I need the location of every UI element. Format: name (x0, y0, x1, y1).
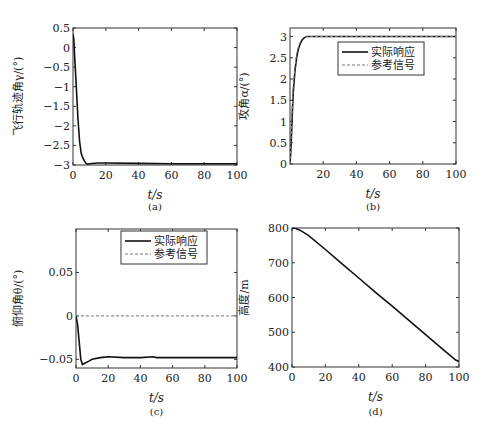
y-tick-label: −1 (54, 81, 70, 94)
panel-label: (a) (148, 201, 162, 212)
y-tick-label: −3 (54, 159, 70, 172)
subplot-c: 0204060801000.050−0.05实际响应参考信号t/s俯仰角θ/(°… (11, 229, 248, 417)
x-tick-label: 40 (349, 168, 363, 181)
y-tick-label: −0.05 (39, 353, 73, 366)
x-tick-label: 20 (99, 169, 113, 182)
y-tick-label: 500 (268, 326, 289, 339)
x-tick-label: 100 (446, 168, 467, 181)
panel-label: (b) (366, 201, 380, 212)
y-tick-label: 2.5 (270, 52, 288, 65)
y-axis-label: 俯仰角θ/(°) (11, 270, 25, 327)
axes-frame (292, 228, 459, 367)
x-axis-label: t/s (368, 390, 383, 404)
y-tick-label: 600 (268, 292, 289, 305)
x-tick-label: 60 (383, 168, 397, 181)
x-tick-label: 40 (133, 372, 147, 385)
y-tick-label: 0 (63, 42, 70, 55)
actual-response-line (76, 316, 237, 365)
y-tick-label: −1.5 (43, 100, 70, 113)
y-tick-label: 0.5 (270, 137, 288, 150)
y-tick-label: 0 (66, 310, 73, 323)
x-tick-label: 100 (449, 371, 470, 384)
y-axis-label: 飞行轨迹角γ/(°) (11, 57, 25, 136)
legend: 实际响应参考信号 (338, 42, 424, 75)
y-tick-label: 400 (268, 361, 289, 374)
y-tick-label: 0.5 (53, 22, 71, 35)
panel-label: (c) (150, 406, 164, 417)
x-tick-label: 100 (227, 169, 248, 182)
y-tick-label: 0 (280, 158, 287, 171)
y-tick-label: 700 (268, 257, 289, 270)
x-tick-label: 20 (318, 371, 332, 384)
x-axis-label: t/s (365, 187, 380, 201)
legend-entry-label: 参考信号 (371, 58, 415, 72)
actual-response-line (292, 228, 459, 361)
x-tick-label: 20 (101, 372, 115, 385)
x-axis-label: t/s (147, 188, 162, 202)
actual-response-line (73, 34, 237, 164)
x-tick-label: 40 (132, 169, 146, 182)
y-tick-label: 0.05 (49, 266, 74, 279)
x-tick-label: 60 (385, 371, 399, 384)
legend-entry-label: 参考信号 (154, 247, 198, 261)
x-tick-label: 60 (164, 169, 178, 182)
x-tick-label: 0 (289, 371, 296, 384)
subplot-a: 0204060801000.50−0.5−1−1.5−2−2.5−3t/s飞行轨… (11, 22, 248, 212)
y-tick-label: 800 (268, 222, 289, 235)
x-tick-label: 40 (352, 371, 366, 384)
x-tick-label: 80 (419, 371, 433, 384)
legend-entry-label: 实际响应 (371, 45, 415, 59)
x-tick-label: 60 (166, 372, 180, 385)
panel-label: (d) (368, 406, 382, 417)
y-tick-label: 3 (280, 31, 287, 44)
legend: 实际响应参考信号 (121, 231, 207, 264)
y-axis-label: 攻角α/(°) (237, 72, 251, 119)
x-tick-label: 80 (416, 168, 430, 181)
y-tick-label: −2 (54, 120, 70, 133)
y-tick-label: −2.5 (43, 139, 70, 152)
y-axis-label: 高度/m (237, 279, 251, 316)
y-tick-label: 1.5 (270, 94, 288, 107)
x-tick-label: 0 (70, 169, 77, 182)
x-tick-label: 0 (73, 372, 80, 385)
legend-entry-label: 实际响应 (154, 234, 198, 248)
subplot-b: 2040608010000.511.522.53实际响应参考信号t/s攻角α/(… (237, 28, 467, 212)
x-tick-label: 80 (198, 372, 212, 385)
x-tick-label: 20 (316, 168, 330, 181)
y-tick-label: 1 (280, 116, 287, 129)
x-tick-label: 100 (227, 372, 248, 385)
x-tick-label: 80 (197, 169, 211, 182)
x-axis-label: t/s (149, 391, 164, 405)
subplot-d: 020406080100400500600700800t/s高度/m(d) (237, 222, 470, 417)
axes-frame (73, 28, 237, 165)
y-tick-label: 2 (280, 73, 287, 86)
y-tick-label: −0.5 (43, 61, 70, 74)
figure: 0204060801000.50−0.5−1−1.5−2−2.5−3t/s飞行轨… (0, 0, 490, 441)
